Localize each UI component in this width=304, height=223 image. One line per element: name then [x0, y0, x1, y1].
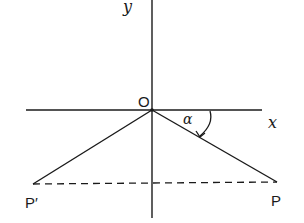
- segment-op: [152, 110, 277, 182]
- segment-op-prime: [33, 110, 152, 184]
- origin-label: O: [138, 94, 150, 109]
- angle-alpha-label: α: [183, 112, 192, 126]
- reflection-diagram: [0, 0, 304, 223]
- y-axis-label: y: [123, 0, 132, 15]
- point-p-prime-label: P′: [25, 195, 38, 210]
- angle-alpha-arc: [200, 111, 211, 136]
- x-axis-label: x: [268, 115, 277, 131]
- point-p-label: P: [271, 193, 281, 208]
- origin-point: [150, 108, 154, 112]
- segment-p-prime-p-dashed: [33, 182, 277, 184]
